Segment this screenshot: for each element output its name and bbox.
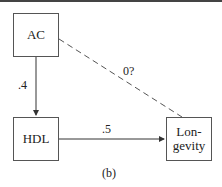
node-hdl-label: HDL	[23, 132, 50, 146]
node-longevity-label: Lon- gevity	[173, 125, 206, 153]
path-diagram: AC HDL Lon- gevity .4 .5 0? (b)	[0, 0, 222, 187]
caption: (b)	[102, 166, 116, 181]
node-ac-label: AC	[27, 28, 45, 42]
node-hdl: HDL	[13, 117, 59, 161]
node-longevity: Lon- gevity	[166, 117, 212, 161]
edge-label-hdl-longevity: .5	[102, 122, 111, 137]
edge-label-ac-longevity: 0?	[123, 64, 134, 79]
edge-ac-longevity-dashed	[59, 39, 182, 117]
node-ac: AC	[13, 13, 59, 57]
edge-label-ac-hdl: .4	[18, 78, 27, 93]
